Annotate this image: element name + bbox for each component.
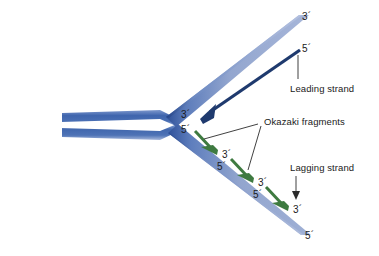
okazaki-leader-line-1	[204, 124, 258, 139]
label-lagging-strand: Lagging strand	[290, 163, 354, 173]
lower-template-band-highlight	[168, 133, 304, 235]
label-okazaki-2-5prime: 5´	[217, 162, 226, 172]
upper-template-band-highlight	[166, 15, 302, 118]
lower-template-strand	[168, 124, 311, 235]
label-fork-lower-5prime: 5´	[181, 125, 190, 135]
parent-strand-top	[62, 110, 176, 126]
parental-dna-duplex	[62, 110, 177, 140]
label-leading-strand-5prime: 5´	[302, 44, 311, 54]
replication-fork-figure: 3´ 5´ Leading strand 3´ 5´ Okazaki fragm…	[0, 0, 379, 256]
okazaki-fragment-arrows	[195, 131, 289, 211]
label-lower-template-5prime: 5´	[305, 231, 314, 241]
label-leading-strand: Leading strand	[290, 84, 354, 94]
parent-strand-bottom	[62, 124, 177, 140]
label-okazaki-1-3prime: 3´	[222, 150, 231, 160]
lagging-strand-leader-line	[292, 176, 300, 200]
label-okazaki-2-3prime: 3´	[258, 178, 267, 188]
label-okazaki-3-5prime: 5´	[253, 190, 262, 200]
lower-template-band	[168, 124, 311, 235]
okazaki-leader-line-2	[248, 126, 261, 170]
label-okazaki-3-3prime: 3´	[293, 205, 302, 215]
label-fork-upper-3prime: 3´	[181, 110, 190, 120]
label-upper-template-3prime: 3´	[302, 12, 311, 22]
label-okazaki-fragments: Okazaki fragments	[264, 117, 345, 127]
